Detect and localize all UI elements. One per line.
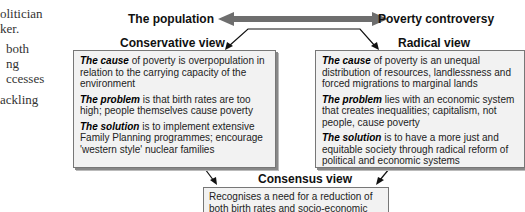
consensus-view-box: Recognises a need for a reduction of bot… bbox=[203, 187, 389, 212]
problem-label: The problem bbox=[80, 94, 140, 105]
cause-label: The cause bbox=[322, 55, 371, 66]
cause-label: The cause bbox=[80, 55, 129, 66]
problem-label: The problem bbox=[322, 94, 382, 105]
radical-view-title: Radical view bbox=[398, 36, 470, 50]
branch-arrow-icon bbox=[229, 29, 375, 46]
poverty-controversy-label: Poverty controversy bbox=[378, 12, 494, 26]
double-arrow-icon bbox=[218, 12, 388, 26]
conservative-view-title: Conservative view bbox=[120, 36, 225, 50]
conservative-view-box: The cause of poverty is overpopulation i… bbox=[73, 50, 276, 168]
consensus-view-title: Consensus view bbox=[258, 172, 352, 186]
population-label: The population bbox=[128, 12, 214, 26]
solution-label: The solution bbox=[322, 132, 381, 143]
consensus-text: Recognises a need for a reduction of bot… bbox=[209, 191, 372, 212]
radical-view-box: The cause of poverty is an unequal distr… bbox=[315, 50, 525, 168]
solution-label: The solution bbox=[80, 121, 139, 132]
